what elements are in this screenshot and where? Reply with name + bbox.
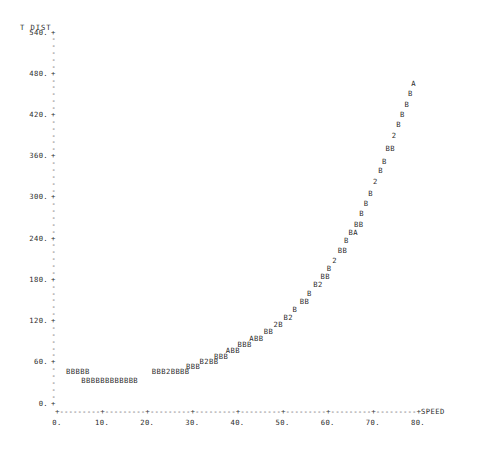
- x-tick-label: 10.: [90, 419, 114, 427]
- data-point-glyph: 2B: [274, 321, 283, 329]
- data-point-glyph: BBBBB: [66, 368, 90, 376]
- y-tick-label: 240.: [18, 235, 48, 243]
- y-tick-label: 60.: [18, 358, 48, 366]
- x-tick-label: 40.: [226, 419, 250, 427]
- data-point-glyph: B: [404, 101, 409, 109]
- data-point-glyph: BB: [338, 247, 347, 255]
- data-point-glyph: 2: [373, 178, 378, 186]
- y-tick-label: 540.: [18, 29, 48, 37]
- data-point-glyph: BB: [300, 298, 309, 306]
- data-point-glyph: 2: [332, 257, 337, 265]
- x-axis-line: +---------+---------+---------+---------…: [55, 408, 421, 416]
- y-tick-label: 0.: [18, 400, 48, 408]
- data-point-glyph: B2: [313, 281, 322, 289]
- data-point-glyph: B: [293, 306, 298, 314]
- data-point-glyph: A: [411, 80, 416, 88]
- data-point-glyph: B: [359, 210, 364, 218]
- data-point-glyph: BB: [264, 328, 273, 336]
- x-tick-label: 80.: [406, 419, 430, 427]
- data-point-glyph: BBBBBBBBBBBB: [81, 377, 138, 385]
- y-tick-label: 180.: [18, 276, 48, 284]
- data-point-glyph: B2BB: [200, 358, 219, 366]
- x-tick-label: 0.: [45, 419, 69, 427]
- data-point-glyph: B: [344, 237, 349, 245]
- data-point-glyph: B: [378, 167, 383, 175]
- x-tick-label: 20.: [135, 419, 159, 427]
- character-plot-canvas: T DIST540.+-----480.+-----420.+-----360.…: [0, 0, 489, 452]
- data-point-glyph: BA: [349, 229, 358, 237]
- y-tick-label: 420.: [18, 111, 48, 119]
- x-tick-label: 30.: [180, 419, 204, 427]
- data-point-glyph: B: [382, 158, 387, 166]
- data-point-glyph: B: [400, 111, 405, 119]
- data-point-glyph: B: [364, 200, 369, 208]
- data-point-glyph: B: [368, 190, 373, 198]
- x-tick-label: 70.: [361, 419, 385, 427]
- data-point-glyph: B: [408, 90, 413, 98]
- x-axis-title: SPEED: [421, 408, 445, 416]
- y-tick-label: 120.: [18, 317, 48, 325]
- x-tick-label: 50.: [271, 419, 295, 427]
- data-point-glyph: B2: [284, 314, 293, 322]
- y-tick-label: 480.: [18, 70, 48, 78]
- x-tick-label: 60.: [316, 419, 340, 427]
- y-tick-label: 300.: [18, 193, 48, 201]
- data-point-glyph: BBB2BBBB: [152, 368, 190, 376]
- data-point-glyph: 2: [392, 132, 397, 140]
- data-point-glyph: B: [396, 121, 401, 129]
- y-tick-label: 360.: [18, 152, 48, 160]
- data-point-glyph: BB: [386, 145, 395, 153]
